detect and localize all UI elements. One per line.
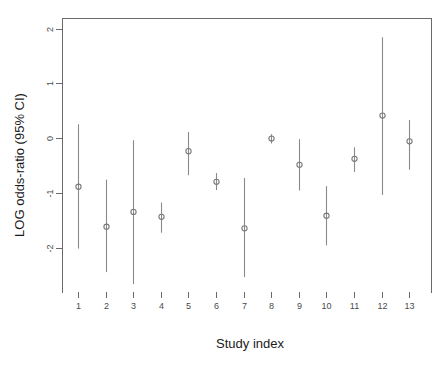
x-axis-tick-label: 1: [76, 301, 81, 311]
x-axis-tick-label: 10: [321, 301, 331, 311]
x-axis-tick-label: 13: [404, 301, 414, 311]
y-axis-tick-label: 2: [45, 27, 55, 32]
y-axis-tick-label: 1: [45, 81, 55, 86]
forest-plot-figure: -2-1012 12345678910111213 Study index LO…: [0, 0, 441, 365]
y-axis-title: LOG odds-ratio (95% CI): [12, 93, 27, 237]
figure-background: [0, 0, 441, 365]
x-axis-tick-label: 3: [131, 301, 136, 311]
x-axis-tick-label: 12: [377, 301, 387, 311]
x-axis-title: Study index: [216, 336, 284, 351]
x-axis-tick-label: 7: [242, 301, 247, 311]
x-axis-tick-label: 8: [269, 301, 274, 311]
x-axis-tick-label: 9: [297, 301, 302, 311]
x-axis-tick-label: 4: [159, 301, 164, 311]
x-axis-tick-label: 11: [350, 301, 359, 311]
x-axis-tick-label: 2: [104, 301, 109, 311]
y-axis-tick-label: -2: [45, 244, 55, 252]
x-axis-tick-label: 6: [214, 301, 219, 311]
y-axis-tick-label: -1: [45, 189, 55, 197]
x-axis-tick-label: 5: [186, 301, 191, 311]
y-axis-tick-label: 0: [45, 136, 55, 141]
forest-plot-canvas: -2-1012 12345678910111213 Study index LO…: [0, 0, 441, 365]
